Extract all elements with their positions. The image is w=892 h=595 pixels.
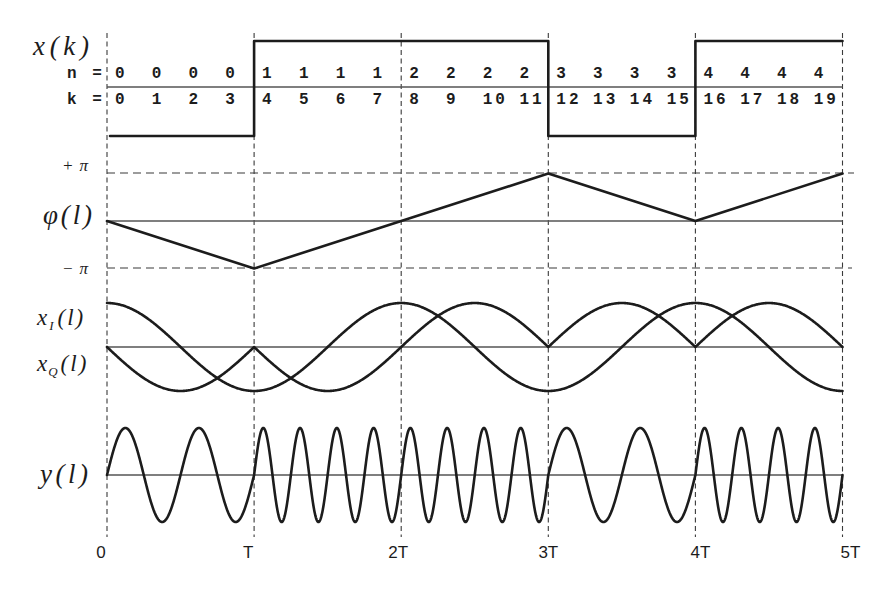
x-tick-label: 2T	[388, 543, 408, 562]
n-value: 3	[556, 65, 569, 83]
xq-label-sub: Q	[48, 364, 58, 379]
k-value: 18	[777, 91, 802, 109]
n-value: 0	[115, 65, 128, 83]
x-axis-ticks: 0T2T3T4T5T	[96, 543, 860, 562]
x-tick-label: 4T	[690, 543, 710, 562]
k-value: 11	[520, 91, 545, 109]
k-value: 7	[372, 91, 385, 109]
k-value: 4	[262, 91, 275, 109]
msk-waveform-figure: n =k =0001020314151617282921021131231331…	[0, 0, 892, 595]
n-value: 1	[262, 65, 275, 83]
k-value: 2	[189, 91, 202, 109]
k-value: 15	[667, 91, 692, 109]
xi-label-base: x	[36, 305, 48, 330]
phase-ylabel: φ(l)	[43, 200, 92, 230]
x-tick-label: T	[243, 543, 253, 562]
y-ylabel: y(l)	[37, 459, 88, 489]
n-value: 1	[299, 65, 312, 83]
y-modulated-trace	[107, 428, 843, 522]
k-value: 3	[225, 91, 238, 109]
n-value: 2	[446, 65, 459, 83]
k-value: 19	[814, 91, 839, 109]
xi-label-sub: I	[48, 318, 54, 333]
n-value: 4	[703, 65, 716, 83]
k-value: 13	[593, 91, 618, 109]
n-row-label: n =	[67, 65, 105, 83]
k-value: 6	[336, 91, 349, 109]
k-value: 0	[115, 91, 128, 109]
xi-ylabel: xI(l)	[36, 305, 85, 333]
k-value: 5	[299, 91, 312, 109]
x-tick-label: 5T	[841, 543, 861, 562]
n-value: 0	[225, 65, 238, 83]
n-value: 4	[777, 65, 790, 83]
n-value: 2	[483, 65, 496, 83]
k-value: 8	[409, 91, 422, 109]
x-tick-label: 0	[96, 543, 105, 562]
k-value: 1	[152, 91, 165, 109]
minus-pi-label: −π	[62, 259, 88, 278]
k-value: 16	[703, 91, 728, 109]
n-value: 2	[520, 65, 533, 83]
xi-label-arg: (l)	[58, 305, 86, 330]
xq-label-arg: (l)	[61, 351, 89, 376]
xk-ylabel: x(k)	[32, 31, 89, 61]
n-value: 3	[667, 65, 680, 83]
n-value: 0	[189, 65, 202, 83]
x-tick-label: 3T	[538, 543, 558, 562]
n-value: 2	[409, 65, 422, 83]
signal-traces	[107, 41, 843, 522]
k-value: 10	[483, 91, 508, 109]
n-value: 3	[593, 65, 606, 83]
xk-step-trace	[110, 41, 843, 136]
k-value: 14	[630, 91, 655, 109]
axis-lines	[107, 87, 854, 475]
k-value: 17	[740, 91, 765, 109]
n-value: 1	[336, 65, 349, 83]
xq-ylabel: xQ(l)	[36, 351, 88, 379]
time-gridlines	[107, 33, 843, 537]
k-value: 9	[446, 91, 459, 109]
k-value: 12	[556, 91, 581, 109]
n-value: 4	[740, 65, 753, 83]
n-value: 4	[814, 65, 827, 83]
k-row-label: k =	[67, 91, 105, 109]
plus-pi-label: +π	[62, 156, 88, 175]
n-value: 3	[630, 65, 643, 83]
n-value: 1	[372, 65, 385, 83]
xq-label-base: x	[36, 351, 48, 376]
n-value: 0	[152, 65, 165, 83]
